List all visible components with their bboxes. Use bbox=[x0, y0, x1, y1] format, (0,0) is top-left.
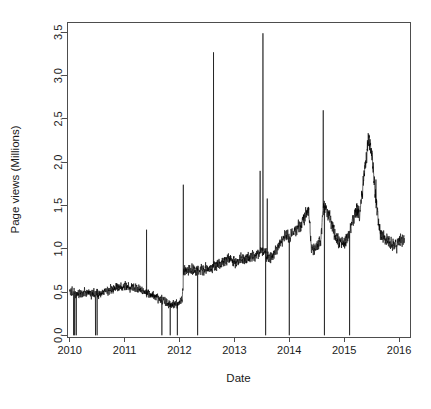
y-tick-label: 1.5 bbox=[52, 198, 64, 213]
series-line-page-views bbox=[70, 33, 405, 335]
line-chart-plot: 0.00.51.01.52.02.53.03.52010201120122013… bbox=[0, 0, 431, 409]
x-tick-label: 2010 bbox=[58, 344, 82, 356]
axes-layer: 0.00.51.01.52.02.53.03.52010201120122013… bbox=[52, 22, 411, 356]
y-tick-label: 2.5 bbox=[52, 111, 64, 126]
x-tick-label: 2016 bbox=[387, 344, 411, 356]
series-layer bbox=[70, 33, 405, 335]
y-tick-label: 0.5 bbox=[52, 284, 64, 299]
x-tick-label: 2013 bbox=[222, 344, 246, 356]
chart-figure: 0.00.51.01.52.02.53.03.52010201120122013… bbox=[0, 0, 431, 409]
y-tick-label: 3.5 bbox=[52, 25, 64, 40]
y-tick-label: 0.0 bbox=[52, 328, 64, 343]
y-axis-title: Page views (Millions) bbox=[9, 125, 21, 233]
x-tick-label: 2011 bbox=[113, 344, 137, 356]
x-tick-label: 2012 bbox=[167, 344, 191, 356]
y-tick-label: 3.0 bbox=[52, 68, 64, 83]
x-tick-label: 2015 bbox=[332, 344, 356, 356]
y-tick-label: 1.0 bbox=[52, 241, 64, 256]
x-tick-label: 2014 bbox=[277, 344, 301, 356]
y-tick-label: 2.0 bbox=[52, 155, 64, 170]
x-axis-title: Date bbox=[226, 372, 250, 384]
